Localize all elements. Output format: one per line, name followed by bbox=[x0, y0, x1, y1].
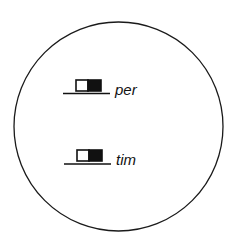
outer-circle bbox=[14, 22, 223, 231]
label-per: per bbox=[115, 82, 137, 97]
box-filled-half bbox=[89, 150, 102, 161]
box-empty-half bbox=[77, 150, 89, 161]
box-empty-half bbox=[76, 80, 88, 91]
symbol-per bbox=[63, 80, 110, 94]
symbol-tim bbox=[64, 150, 111, 164]
label-tim: tim bbox=[116, 152, 136, 167]
box-filled-half bbox=[88, 80, 101, 91]
diagram-canvas bbox=[0, 0, 236, 246]
